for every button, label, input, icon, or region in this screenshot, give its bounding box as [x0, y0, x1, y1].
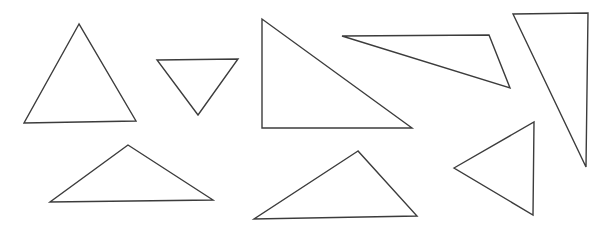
triangle-1-shape — [24, 24, 136, 123]
triangle-7-shape — [50, 145, 213, 202]
triangle-8-shape — [254, 151, 417, 219]
triangles-figure — [0, 0, 607, 232]
triangle-5-shape — [513, 13, 588, 167]
triangle-6-shape — [454, 122, 534, 215]
triangle-4-shape — [342, 35, 510, 88]
drawing-canvas — [0, 0, 607, 232]
triangle-2-shape — [157, 59, 238, 115]
